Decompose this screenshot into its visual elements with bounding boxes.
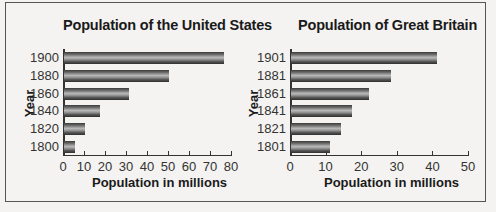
gb-population-chart: Population of Great Britain Year 1901188… [246, 3, 486, 203]
category-label: 1881 [254, 68, 286, 83]
x-tick-label: 70 [203, 159, 217, 174]
x-tick-label: 10 [77, 159, 91, 174]
plot-area: 19011881186118411821180101020304050 [290, 49, 468, 156]
x-tick [231, 151, 232, 156]
figure-frame: Population of the United States Year 190… [5, 2, 486, 202]
x-tick [168, 151, 169, 156]
plot-area: 1900188018601840182018000102030405060708… [63, 49, 231, 156]
category-label: 1800 [27, 139, 59, 154]
x-tick-label: 10 [318, 159, 332, 174]
x-axis [290, 155, 468, 157]
bar-1821 [291, 123, 341, 135]
bar-1840 [64, 105, 100, 117]
bar-1841 [291, 105, 352, 117]
category-label: 1840 [27, 103, 59, 118]
bar-1900 [64, 52, 224, 64]
bar-1820 [64, 123, 85, 135]
category-label: 1801 [254, 139, 286, 154]
x-tick [84, 151, 85, 156]
us-population-chart: Population of the United States Year 190… [6, 3, 246, 203]
category-label: 1861 [254, 86, 286, 101]
category-label: 1880 [27, 68, 59, 83]
bar-1881 [291, 70, 391, 82]
x-axis-label: Population in millions [324, 175, 459, 190]
x-tick [147, 151, 148, 156]
bar-1901 [291, 52, 437, 64]
x-tick [189, 151, 190, 156]
category-label: 1820 [27, 121, 59, 136]
x-tick-label: 20 [354, 159, 368, 174]
bar-1861 [291, 88, 369, 100]
x-tick-label: 50 [461, 159, 475, 174]
bar-1880 [64, 70, 169, 82]
x-tick-label: 40 [425, 159, 439, 174]
x-tick-label: 30 [119, 159, 133, 174]
category-label: 1900 [27, 50, 59, 65]
chart-title: Population of Great Britain [298, 17, 477, 33]
x-tick-label: 40 [140, 159, 154, 174]
category-label: 1901 [254, 50, 286, 65]
x-tick-label: 0 [286, 159, 293, 174]
x-axis-label: Population in millions [92, 175, 227, 190]
y-axis [290, 49, 292, 156]
x-tick-label: 30 [390, 159, 404, 174]
category-label: 1860 [27, 86, 59, 101]
x-tick-label: 80 [224, 159, 238, 174]
y-axis [63, 49, 65, 156]
bar-1860 [64, 88, 129, 100]
x-tick-label: 50 [161, 159, 175, 174]
x-tick [126, 151, 127, 156]
category-label: 1821 [254, 121, 286, 136]
x-tick [397, 151, 398, 156]
x-tick-label: 0 [59, 159, 66, 174]
x-tick [361, 151, 362, 156]
x-tick [210, 151, 211, 156]
x-tick [468, 151, 469, 156]
chart-title: Population of the United States [63, 17, 272, 33]
x-tick-label: 60 [182, 159, 196, 174]
x-tick-label: 20 [98, 159, 112, 174]
category-label: 1841 [254, 103, 286, 118]
x-tick [105, 151, 106, 156]
x-tick [326, 151, 327, 156]
bar-1801 [291, 141, 330, 153]
x-tick [432, 151, 433, 156]
bar-1800 [64, 141, 75, 153]
